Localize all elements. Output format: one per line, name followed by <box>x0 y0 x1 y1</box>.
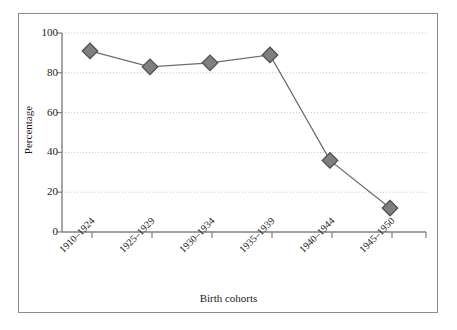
gridlines <box>62 33 426 192</box>
y-tick-0: 0 <box>24 226 58 237</box>
data-point-1925-1929 <box>142 59 158 75</box>
chart-page: 100 80 60 40 20 0 1910–1924 1925–1929 19… <box>0 0 457 330</box>
y-tick-100: 100 <box>24 27 58 38</box>
data-point-1940-1944 <box>322 153 338 169</box>
y-tick-80: 80 <box>24 67 58 78</box>
data-point-1945-1950 <box>382 200 398 216</box>
data-line-series-percentage <box>90 51 390 208</box>
chart-plot-area: 100 80 60 40 20 0 1910–1924 1925–1929 19… <box>0 0 457 330</box>
data-point-1935-1939 <box>262 47 278 63</box>
x-axis-title: Birth cohorts <box>0 292 457 304</box>
y-axis-title: Percentage <box>22 85 34 175</box>
data-point-1930-1934 <box>202 55 218 71</box>
y-tick-20: 20 <box>24 186 58 197</box>
chart-svg <box>0 0 457 330</box>
data-point-1910-1924 <box>82 43 98 59</box>
data-markers <box>82 43 398 216</box>
